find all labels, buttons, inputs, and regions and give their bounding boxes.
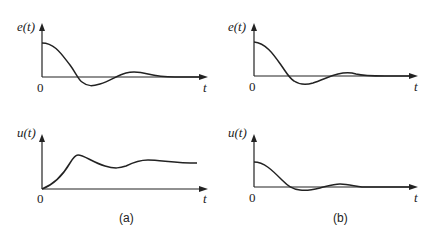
caption-a: (a)	[119, 211, 134, 225]
origin-label: 0	[249, 79, 256, 94]
origin-label: 0	[37, 80, 44, 95]
chart-a-control: u(t) 0 t (a)	[17, 125, 208, 225]
chart-b-control: u(t) 0 t (b)	[228, 125, 418, 225]
y-axis-label: u(t)	[17, 125, 36, 140]
caption-b: (b)	[333, 211, 348, 225]
origin-label: 0	[37, 191, 44, 206]
control-curve	[42, 155, 197, 189]
origin-label: 0	[249, 190, 256, 205]
chart-a-error: e(t) 0 t	[17, 19, 208, 95]
y-axis-label: e(t)	[228, 19, 246, 34]
y-axis-arrow-icon	[39, 134, 45, 142]
x-axis-label: t	[414, 190, 418, 205]
y-axis-label: u(t)	[228, 125, 247, 140]
figure: e(t) 0 t u(t) 0 t (a) e(t) 0 t u(t)	[0, 0, 433, 234]
y-axis-label: e(t)	[17, 19, 35, 34]
x-axis-label: t	[203, 191, 207, 206]
chart-b-error: e(t) 0 t	[228, 19, 418, 94]
x-axis-label: t	[414, 79, 418, 94]
y-axis-arrow-icon	[251, 134, 257, 142]
x-axis-label: t	[203, 80, 207, 95]
y-axis-arrow-icon	[251, 23, 257, 31]
error-curve	[254, 42, 410, 84]
y-axis-arrow-icon	[39, 23, 45, 31]
error-curve	[42, 43, 200, 86]
control-curve	[254, 162, 410, 190]
